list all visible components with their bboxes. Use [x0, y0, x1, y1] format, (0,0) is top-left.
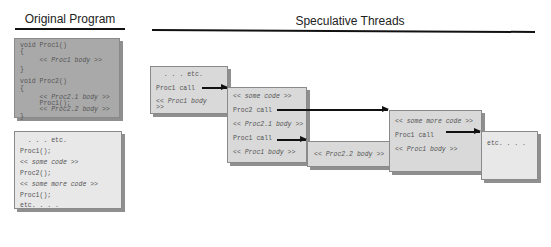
def-line: {	[20, 49, 24, 56]
def-line: {	[20, 86, 24, 93]
speculative-threads-title: Speculative Threads	[250, 14, 450, 28]
thread-line: Proc1 call	[156, 86, 195, 93]
spawn-arrow-3	[277, 139, 306, 141]
def-line: << Proc2.2 body >>	[20, 107, 110, 114]
def-line: }	[20, 67, 24, 74]
original-program-rule	[15, 28, 125, 30]
thread-line: Proc1 call	[395, 133, 434, 140]
main-line: etc. . . .	[20, 203, 59, 210]
thread-line: Proc2 call	[233, 108, 272, 115]
thread-line: << some code >>	[233, 94, 292, 101]
def-line: void Proc2()	[20, 79, 67, 86]
main-line: << some code >>	[20, 160, 79, 167]
spawn-arrow-1	[202, 87, 227, 89]
def-line: }	[20, 114, 24, 121]
procedure-definitions-box: void Proc1() { << Proc1 body >> } void P…	[14, 38, 120, 118]
thread-box-4: << some more code >> Proc1 call << Proc1…	[389, 110, 482, 172]
thread-box-5: etc. . . .	[481, 131, 538, 180]
main-line: << some more code >>	[20, 182, 98, 189]
thread-line: . . . etc.	[156, 72, 203, 79]
thread-line: etc. . . .	[487, 141, 526, 148]
main-line: Proc2();	[20, 171, 51, 178]
main-line: Proc1();	[20, 193, 51, 200]
main-program-box: . . . etc. Proc1(); << some code >> Proc…	[14, 131, 122, 209]
thread-box-3: << Proc2.2 body >>	[307, 141, 390, 167]
def-line: << Proc1 body >>	[20, 58, 102, 65]
thread-line: Proc1 call	[233, 136, 272, 143]
thread-box-1: . . . etc. Proc1 call << Proc1 body >>	[150, 66, 228, 114]
def-line: void Proc1()	[20, 43, 67, 50]
thread-line: << Proc2.1 body >>	[233, 122, 303, 129]
thread-box-2: << some code >> Proc2 call << Proc2.1 bo…	[227, 87, 307, 163]
thread-line: << some more code >>	[395, 119, 473, 126]
main-line: Proc1();	[20, 149, 51, 156]
original-program-title: Original Program	[12, 12, 128, 26]
speculative-threads-rule	[152, 29, 535, 33]
thread-line: << Proc1 body >>	[395, 147, 457, 154]
thread-line: >>	[156, 105, 164, 112]
main-line: . . . etc.	[20, 138, 67, 145]
thread-line: << Proc2.2 body >>	[314, 152, 384, 159]
spawn-arrow-2	[277, 109, 388, 111]
spawn-arrow-4	[446, 131, 480, 133]
thread-line: << Proc1 body >>	[233, 150, 295, 157]
